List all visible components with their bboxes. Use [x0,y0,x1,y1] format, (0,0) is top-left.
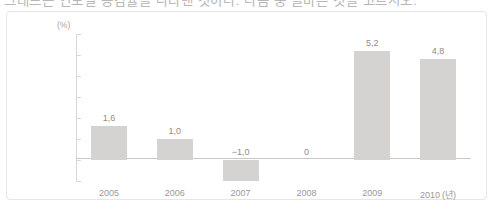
x-axis-category-label: 2006 [165,188,185,198]
bar-chart: (%) 65432−10−1 1,620051,02006−1,02007020… [7,12,488,201]
bar-column: 1,02006 [142,34,208,181]
x-axis-category-label: 2007 [231,188,251,198]
bar-column: 02008 [274,34,340,181]
bar-value-label: 0 [304,147,309,157]
bar-column: 1,62005 [76,34,142,181]
x-axis-category-label: 2009 [362,188,382,198]
bar-value-label: −1,0 [232,147,250,157]
chart-panel: (%) 65432−10−1 1,620051,02006−1,02007020… [6,11,487,200]
x-axis-unit-label: (년) [442,190,456,200]
bar-value-label: 1,0 [168,126,181,136]
x-axis-category-label: 2005 [99,188,119,198]
screenshot-root: 그래프는 연도별 증감률을 나타낸 것이다. 다음 중 올바른 것을 고르시오.… [0,0,501,213]
bar [420,59,456,160]
bar [91,126,127,160]
x-axis-category-label: 2010(년) [420,188,456,201]
bar-column: 5,22009 [339,34,405,181]
bar-value-label: 5,2 [366,38,379,48]
cropped-question-text-label: 그래프는 연도별 증감률을 나타낸 것이다. 다음 중 올바른 것을 고르시오. [4,0,417,9]
bar [354,51,390,160]
bar [223,160,259,181]
bar-series: 1,620051,02006−1,02007020085,220094,8201… [76,34,471,181]
x-axis-category-label: 2008 [296,188,316,198]
cropped-question-text: 그래프는 연도별 증감률을 나타낸 것이다. 다음 중 올바른 것을 고르시오. [0,0,501,9]
bar-column: −1,02007 [208,34,274,181]
bar-value-label: 4,8 [432,46,445,56]
y-axis-unit-label: (%) [57,20,70,30]
bar [157,139,193,160]
bar-column: 4,82010(년) [405,34,471,181]
bar-value-label: 1,6 [103,113,116,123]
y-axis-tick-mark [76,181,81,182]
